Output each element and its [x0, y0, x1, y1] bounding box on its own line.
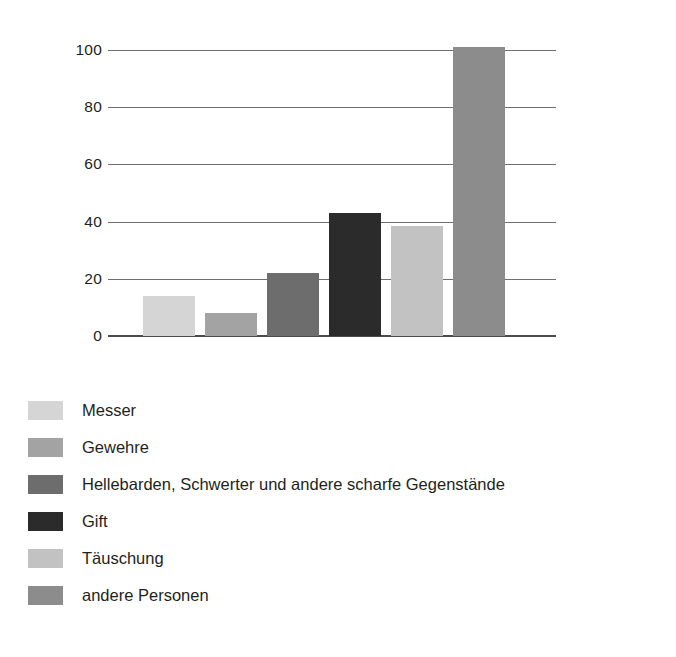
bar-2 [205, 313, 257, 336]
legend-item: Gewehre [28, 429, 648, 466]
legend-item-label: Täuschung [82, 549, 164, 567]
bar-3 [267, 273, 319, 336]
bar-6 [453, 47, 505, 336]
legend-item-label: Gewehre [82, 438, 149, 456]
legend-item: Gift [28, 503, 648, 540]
legend-item: Messer [28, 392, 648, 429]
legend-swatch-icon [28, 475, 63, 494]
legend-item: Täuschung [28, 540, 648, 577]
legend-swatch-icon [28, 586, 63, 605]
bar-1 [143, 296, 195, 336]
bar-series [0, 0, 676, 370]
legend-swatch-icon [28, 401, 63, 420]
bar-4 [329, 213, 381, 336]
legend-item-label: andere Personen [82, 586, 209, 604]
chart-figure: 020406080100 MesserGewehreHellebarden, S… [0, 0, 676, 657]
legend-item-label: Gift [82, 512, 108, 530]
chart-legend: MesserGewehreHellebarden, Schwerter und … [28, 392, 648, 614]
legend-swatch-icon [28, 512, 63, 531]
bar-chart-plot: 020406080100 [0, 0, 676, 370]
legend-swatch-icon [28, 438, 63, 457]
legend-item: andere Personen [28, 577, 648, 614]
legend-item-label: Hellebarden, Schwerter und andere scharf… [82, 475, 505, 493]
legend-swatch-icon [28, 549, 63, 568]
bar-5 [391, 226, 443, 336]
legend-item-label: Messer [82, 401, 136, 419]
legend-item: Hellebarden, Schwerter und andere scharf… [28, 466, 648, 503]
